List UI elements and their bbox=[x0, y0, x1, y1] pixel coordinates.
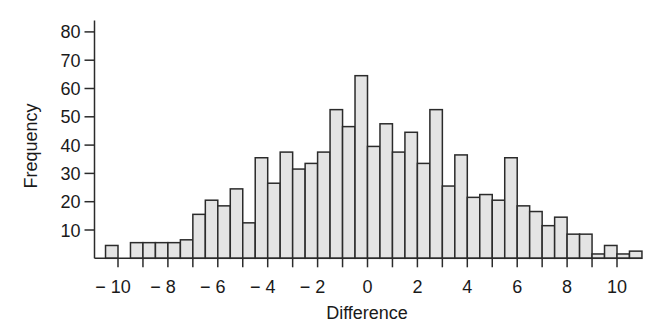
histogram-bar bbox=[143, 243, 155, 259]
histogram-bar bbox=[230, 189, 242, 258]
histogram-bar bbox=[492, 200, 504, 258]
histogram-bar bbox=[368, 146, 380, 258]
y-axis-title: Frequency bbox=[21, 103, 41, 188]
y-tick-label: 60 bbox=[60, 79, 80, 99]
x-tick-label: − 4 bbox=[250, 277, 276, 297]
x-tick-label: − 6 bbox=[200, 277, 226, 297]
histogram-bar bbox=[380, 124, 392, 259]
histogram-bar bbox=[255, 158, 267, 259]
y-tick-label: 50 bbox=[60, 107, 80, 127]
histogram-bar bbox=[130, 243, 142, 259]
x-tick-label: − 8 bbox=[150, 277, 176, 297]
histogram-bar bbox=[268, 183, 280, 258]
histogram-bar bbox=[467, 197, 479, 258]
histogram-bar bbox=[629, 251, 641, 258]
y-tick-label: 20 bbox=[60, 192, 80, 212]
histogram-bar bbox=[305, 163, 317, 258]
histogram-bar bbox=[180, 240, 192, 258]
x-tick-label: − 2 bbox=[300, 277, 326, 297]
histogram-bar bbox=[542, 226, 554, 259]
histogram-bar bbox=[605, 245, 617, 258]
x-tick-label: 4 bbox=[462, 277, 472, 297]
y-tick-label: 10 bbox=[60, 221, 80, 241]
histogram-bar bbox=[155, 243, 167, 259]
x-tick-label: 8 bbox=[562, 277, 572, 297]
y-tick-label: 30 bbox=[60, 164, 80, 184]
histogram-bar bbox=[293, 169, 305, 258]
histogram-chart: 1020304050607080 − 10− 8− 6− 4− 20246810… bbox=[0, 0, 661, 331]
histogram-bar bbox=[106, 245, 118, 258]
histogram-bar bbox=[517, 206, 529, 258]
histogram-bar bbox=[455, 155, 467, 258]
x-tick-label: 10 bbox=[607, 277, 627, 297]
histogram-bar bbox=[330, 110, 342, 259]
x-axis: − 10− 8− 6− 4− 20246810 bbox=[95, 258, 642, 297]
histogram-bar bbox=[355, 76, 367, 259]
y-tick-label: 40 bbox=[60, 136, 80, 156]
histogram-bar bbox=[343, 127, 355, 259]
x-tick-label: 2 bbox=[412, 277, 422, 297]
y-axis: 1020304050607080 bbox=[60, 21, 94, 259]
histogram-bar bbox=[318, 152, 330, 258]
histogram-bar bbox=[218, 206, 230, 258]
histogram-bar bbox=[205, 200, 217, 258]
histogram-bar bbox=[580, 234, 592, 258]
y-tick-label: 70 bbox=[60, 51, 80, 71]
histogram-bar bbox=[530, 212, 542, 259]
y-tick-label: 80 bbox=[60, 22, 80, 42]
x-tick-label: 6 bbox=[512, 277, 522, 297]
histogram-bar bbox=[505, 158, 517, 259]
histogram-bar bbox=[392, 152, 404, 258]
x-tick-label: − 10 bbox=[95, 277, 131, 297]
histogram-bar bbox=[405, 132, 417, 258]
histogram-bar bbox=[567, 234, 579, 258]
histogram-bar bbox=[243, 223, 255, 258]
x-axis-title: Difference bbox=[326, 303, 408, 323]
histogram-bar bbox=[555, 217, 567, 258]
histogram-bar bbox=[430, 110, 442, 259]
histogram-bar bbox=[417, 163, 429, 258]
histogram-bar bbox=[168, 243, 180, 259]
x-tick-label: 0 bbox=[362, 277, 372, 297]
histogram-bars bbox=[106, 76, 642, 259]
histogram-bar bbox=[442, 186, 454, 258]
histogram-bar bbox=[280, 152, 292, 258]
histogram-bar bbox=[480, 195, 492, 259]
histogram-bar bbox=[193, 214, 205, 258]
